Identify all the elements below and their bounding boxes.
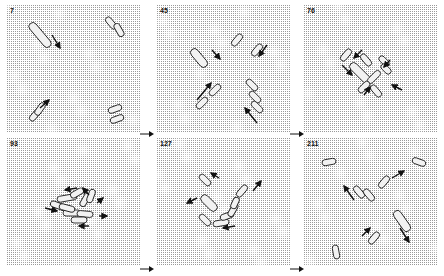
sequence-arrow-icon — [290, 124, 304, 142]
panel-time-label: 127 — [160, 140, 172, 147]
sequence-arrow-icon — [290, 259, 304, 276]
panel-time-label: 76 — [307, 7, 315, 14]
panel-time-label: 93 — [10, 140, 18, 147]
time-panel-76: 76 — [304, 5, 437, 133]
time-panel-93: 93 — [7, 138, 140, 266]
sequence-arrow-icon — [140, 124, 154, 142]
bacterial-cell — [71, 217, 87, 223]
time-panel-211: 211 — [304, 138, 437, 266]
sequence-arrow-icon — [140, 259, 154, 276]
time-panel-45: 45 — [157, 5, 290, 133]
panel-time-label: 45 — [160, 7, 168, 14]
time-panel-127: 127 — [157, 138, 290, 266]
time-panel-7: 7 — [7, 5, 140, 133]
panel-time-label: 7 — [10, 7, 14, 14]
panel-time-label: 211 — [307, 140, 318, 147]
